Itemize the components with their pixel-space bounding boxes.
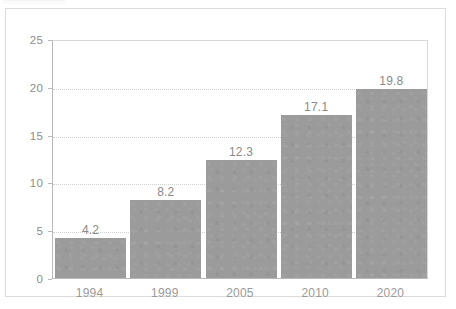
y-axis-tick-label: 5 bbox=[13, 225, 43, 237]
y-axis-tick-label: 15 bbox=[13, 130, 43, 142]
x-axis-tick-label-2020: 2020 bbox=[350, 286, 430, 300]
bar-2005[interactable] bbox=[206, 160, 277, 278]
x-axis-tick-label-1999: 1999 bbox=[125, 286, 205, 300]
plot-area: 4.28.212.317.119.8 bbox=[52, 40, 428, 279]
bar-value-label-2010: 17.1 bbox=[286, 100, 346, 114]
y-axis-tick-label: 10 bbox=[13, 177, 43, 189]
bar-value-label-2005: 12.3 bbox=[211, 145, 271, 159]
bar-value-label-1994: 4.2 bbox=[61, 223, 121, 237]
bar-1994[interactable] bbox=[55, 238, 126, 278]
clipped-top-artifact bbox=[3, 0, 65, 4]
y-axis-tick-label: 25 bbox=[13, 34, 43, 46]
bar-value-label-1999: 8.2 bbox=[136, 185, 196, 199]
chart-card: 0510152025 4.28.212.317.119.8 1994199920… bbox=[5, 8, 446, 297]
x-axis-tick-label-1994: 1994 bbox=[50, 286, 130, 300]
bar-2010[interactable] bbox=[281, 115, 352, 278]
y-axis-tick-label: 0 bbox=[13, 273, 43, 285]
y-axis-tick-label: 20 bbox=[13, 82, 43, 94]
bar-value-label-2020: 19.8 bbox=[361, 74, 421, 88]
bar-2020[interactable] bbox=[356, 89, 427, 278]
bar-1999[interactable] bbox=[130, 200, 201, 278]
x-axis-tick-label-2010: 2010 bbox=[275, 286, 355, 300]
y-axis-tick-mark bbox=[48, 279, 52, 280]
x-axis-tick-label-2005: 2005 bbox=[200, 286, 280, 300]
